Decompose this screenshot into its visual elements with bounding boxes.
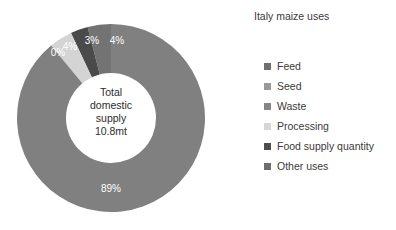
slice-label-4pct-processing: 4% (63, 41, 78, 52)
legend-item-waste[interactable]: Waste (264, 96, 396, 116)
slice-label-89pct: 89% (101, 183, 121, 194)
legend-swatch-icon (264, 103, 271, 110)
center-label-line-2: domestic (66, 99, 156, 112)
center-label-line-1: Total (66, 86, 156, 99)
legend-item-food-supply-quantity[interactable]: Food supply quantity (264, 136, 396, 156)
legend-item-label: Seed (277, 80, 302, 92)
legend-swatch-icon (264, 63, 271, 70)
legend-item-feed[interactable]: Feed (264, 56, 396, 76)
legend-item-label: Food supply quantity (277, 140, 374, 152)
legend-item-seed[interactable]: Seed (264, 76, 396, 96)
chart-title: Italy maize uses (254, 10, 329, 22)
legend-swatch-icon (264, 83, 271, 90)
legend-swatch-icon (264, 123, 271, 130)
legend-item-label: Processing (277, 120, 329, 132)
donut-center-label: Total domestic supply 10.8mt (66, 86, 156, 138)
legend-item-label: Feed (277, 60, 301, 72)
legend-item-processing[interactable]: Processing (264, 116, 396, 136)
legend-item-label: Waste (277, 100, 306, 112)
center-label-line-4: 10.8mt (66, 125, 156, 138)
legend-item-other-uses[interactable]: Other uses (264, 156, 396, 176)
slice-label-3pct: 3% (85, 35, 100, 46)
legend-swatch-icon (264, 143, 271, 150)
legend-panel: Italy maize uses FeedSeedWasteProcessing… (250, 0, 396, 230)
donut-chart: 0% 4% 3% 4% 89% Total domestic supply 10… (0, 0, 240, 230)
slice-label-4pct-other: 4% (110, 35, 125, 46)
legend-item-label: Other uses (277, 160, 328, 172)
legend-swatch-icon (264, 163, 271, 170)
legend-list: FeedSeedWasteProcessingFood supply quant… (264, 56, 396, 176)
center-label-line-3: supply (66, 112, 156, 125)
